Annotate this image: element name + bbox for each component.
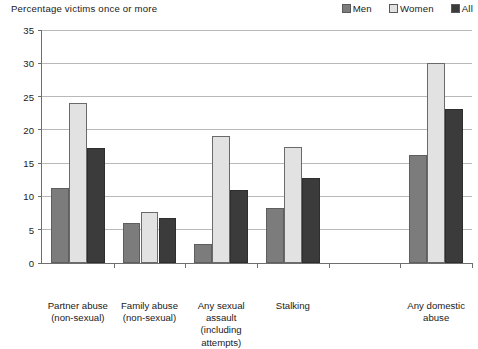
gridline [42, 163, 472, 164]
gridline [42, 196, 472, 197]
x-axis-category-label: Any sexualassault(includingattempts) [181, 300, 261, 349]
x-axis-category-line: attempts) [181, 337, 261, 349]
gridline [42, 96, 472, 97]
x-axis-category-line: (including [181, 324, 261, 336]
y-axis-label: 5 [29, 224, 34, 235]
gridline [42, 30, 472, 31]
x-axis-category-label: Family abuse(non-sexual) [110, 300, 190, 324]
x-axis-category-line: Family abuse [110, 300, 190, 312]
x-axis-category-line: assault [181, 312, 261, 324]
gridline [42, 229, 472, 230]
bar-all[interactable] [302, 178, 320, 263]
bar-women[interactable] [69, 103, 87, 263]
bar-group [123, 30, 177, 263]
bar-all[interactable] [230, 190, 248, 263]
plot-area: 05101520253035Partner abuse(non-sexual)F… [41, 30, 472, 264]
bar-women[interactable] [141, 212, 159, 263]
x-axis-tick [185, 263, 186, 268]
x-axis-tick [472, 263, 473, 268]
x-axis-tick [400, 263, 401, 268]
y-axis-tick [38, 263, 42, 264]
x-axis-category-line: (non-sexual) [38, 312, 118, 324]
bar-women[interactable] [284, 147, 302, 263]
y-axis-tick [38, 63, 42, 64]
legend-item-men[interactable]: Men [342, 3, 372, 14]
x-axis-category-label: Stalking [253, 300, 333, 312]
bar-women[interactable] [212, 136, 230, 263]
bar-group [409, 30, 463, 263]
bar-men[interactable] [123, 223, 141, 263]
x-axis-category-line: Partner abuse [38, 300, 118, 312]
chart-header: Percentage victims once or more MenWomen… [0, 0, 478, 22]
chart-legend: MenWomenAll [342, 3, 473, 14]
bar-all[interactable] [445, 109, 463, 263]
legend-swatch-icon [342, 4, 351, 13]
bar-men[interactable] [409, 155, 427, 263]
x-axis-tick [329, 263, 330, 268]
bar-all[interactable] [159, 218, 177, 263]
legend-label: Men [353, 3, 372, 14]
gridline [42, 63, 472, 64]
bar-men[interactable] [194, 244, 212, 263]
legend-label: Women [400, 3, 434, 14]
bar-all[interactable] [87, 148, 105, 263]
y-axis-label: 30 [23, 58, 34, 69]
bar-women[interactable] [427, 63, 445, 263]
gridline [42, 129, 472, 130]
legend-label: All [462, 3, 473, 14]
y-axis-tick [38, 196, 42, 197]
legend-item-women[interactable]: Women [389, 3, 434, 14]
y-axis-tick [38, 163, 42, 164]
bar-men[interactable] [51, 188, 69, 263]
y-axis-label: 25 [23, 91, 34, 102]
bar-men[interactable] [266, 208, 284, 263]
x-axis-category-line: (non-sexual) [110, 312, 190, 324]
x-axis-tick [114, 263, 115, 268]
legend-swatch-icon [451, 4, 460, 13]
y-axis-tick [38, 96, 42, 97]
x-axis-category-line: Any sexual [181, 300, 261, 312]
bar-group [194, 30, 248, 263]
y-axis-label: 35 [23, 25, 34, 36]
x-axis-category-label: Any domesticabuse [396, 300, 476, 324]
bar-group [266, 30, 320, 263]
x-axis-category-line: abuse [396, 312, 476, 324]
x-axis-category-line: Stalking [253, 300, 333, 312]
y-axis-label: 15 [23, 158, 34, 169]
x-axis-tick [257, 263, 258, 268]
y-axis-label: 0 [29, 258, 34, 269]
chart-title: Percentage victims once or more [11, 3, 157, 14]
y-axis-label: 10 [23, 191, 34, 202]
y-axis-label: 20 [23, 124, 34, 135]
legend-item-all[interactable]: All [451, 3, 473, 14]
y-axis-tick [38, 30, 42, 31]
x-axis-category-line: Any domestic [396, 300, 476, 312]
bar-group [51, 30, 105, 263]
legend-swatch-icon [389, 4, 398, 13]
y-axis-tick [38, 229, 42, 230]
y-axis-tick [38, 129, 42, 130]
x-axis-category-label: Partner abuse(non-sexual) [38, 300, 118, 324]
